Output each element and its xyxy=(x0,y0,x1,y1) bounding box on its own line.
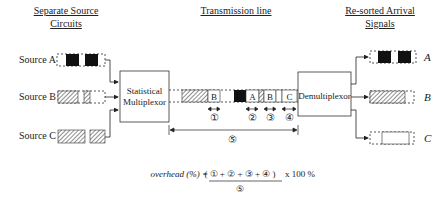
mux-label-2: Multiplexor xyxy=(123,97,166,107)
demux-label: Demultiplexor xyxy=(298,91,351,101)
source-b-packet xyxy=(84,91,90,103)
output-a-packet xyxy=(398,51,411,63)
marker-3: ③ xyxy=(266,112,275,123)
marker-5: ⑤ xyxy=(228,134,237,145)
stat-mux-diagram: Separate Source Circuits Transmission li… xyxy=(0,0,440,204)
svg-text:A: A xyxy=(249,92,256,102)
source-a-packet xyxy=(85,54,98,66)
svg-text:C: C xyxy=(286,92,292,102)
frame-data-b xyxy=(182,90,208,102)
output-b-label: B xyxy=(424,91,431,103)
formula-lhs: overhead (%) = xyxy=(151,169,208,179)
marker-1: ① xyxy=(210,112,219,123)
output-c-packet xyxy=(382,132,409,144)
output-c-label: C xyxy=(424,132,432,144)
source-c-packet xyxy=(90,130,105,143)
frame-data-b2 xyxy=(259,90,264,102)
frame-data-c xyxy=(276,90,282,102)
heading-transmission-line: Transmission line xyxy=(200,5,272,16)
heading-arrival-signals: Re-sorted Arrival Signals xyxy=(345,5,415,29)
svg-text:B: B xyxy=(211,92,217,102)
source-b-packet xyxy=(58,91,78,103)
frame-data-a xyxy=(234,90,246,102)
formula-numerator: ( ① + ② + ③ + ④ ) xyxy=(204,169,275,179)
output-b-packet xyxy=(370,91,405,103)
heading-source-circuits: Separate Source Circuits xyxy=(34,5,99,29)
output-a-packet xyxy=(378,51,391,63)
source-c-packet xyxy=(58,130,85,143)
overhead-formula: overhead (%) = ( ① + ② + ③ + ④ ) x 100 %… xyxy=(151,169,316,194)
heading-right-line2: Signals xyxy=(365,18,395,29)
heading-right-line1: Re-sorted Arrival xyxy=(345,5,415,16)
source-b-label: Source B xyxy=(19,91,56,102)
mux-label-1: Statistical xyxy=(127,86,163,96)
marker-2: ② xyxy=(248,112,257,123)
source-c-label: Source C xyxy=(19,130,56,141)
source-a-label: Source A xyxy=(19,54,57,65)
formula-multiplier: x 100 % xyxy=(285,169,316,179)
heading-left-line1: Separate Source xyxy=(34,5,99,16)
heading-left-line2: Circuits xyxy=(50,18,82,29)
marker-4: ④ xyxy=(285,112,294,123)
svg-text:B: B xyxy=(267,92,273,102)
output-a-label: A xyxy=(423,51,431,63)
source-a-packet xyxy=(66,54,79,66)
formula-denominator: ⑤ xyxy=(236,184,244,194)
